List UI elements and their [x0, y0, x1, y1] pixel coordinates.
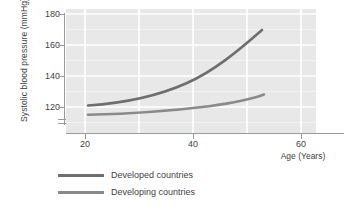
y-tick-label-120: 120 — [20, 103, 60, 112]
y-tick-mark-140 — [58, 76, 65, 77]
x-axis-title: Age (Years) — [258, 151, 348, 161]
legend-label-developed: Developed countries — [111, 171, 193, 180]
y-tick-mark-160 — [58, 45, 65, 46]
y-tick-mark-120 — [58, 107, 65, 108]
y-tick-label-180: 180 — [20, 10, 60, 19]
y-tick-mark-180 — [58, 14, 65, 15]
x-tick-label-60: 60 — [281, 140, 321, 149]
x-tick-label-40: 40 — [173, 140, 213, 149]
legend-swatch-developed — [58, 174, 104, 177]
series-line-developing — [88, 95, 264, 115]
legend-item-developed: Developed countries — [58, 167, 318, 184]
series-line-developed — [88, 30, 262, 106]
legend-swatch-developing — [58, 191, 104, 194]
x-tick-label-20: 20 — [65, 140, 105, 149]
y-tick-label-160: 160 — [20, 41, 60, 50]
y-tick-label-140: 140 — [20, 72, 60, 81]
chart-figure: Systolic blood pressure (mmHg) 180 160 1… — [0, 0, 356, 206]
legend-label-developing: Developing countries — [111, 188, 195, 197]
x-axis-line — [66, 133, 344, 134]
legend-item-developing: Developing countries — [58, 184, 318, 201]
y-axis-line — [64, 13, 65, 125]
chart-legend: Developed countries Developing countries — [58, 167, 318, 201]
plot-area — [66, 9, 316, 133]
